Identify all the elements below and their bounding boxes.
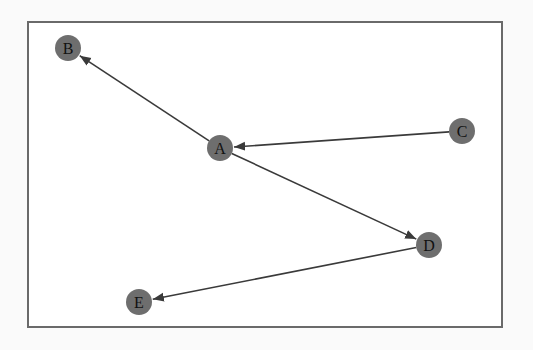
node-label: A [214, 140, 226, 157]
node-d: D [416, 232, 442, 258]
node-e: E [126, 289, 152, 315]
edge-a-to-b [80, 56, 209, 141]
edge-d-to-e [153, 248, 417, 300]
edge-c-to-a [234, 132, 449, 147]
edges-layer [80, 56, 449, 300]
node-a: A [207, 135, 233, 161]
node-label: E [134, 294, 144, 311]
graph-canvas: ABCDE [0, 0, 533, 350]
node-label: C [457, 123, 468, 140]
node-label: B [63, 40, 74, 57]
node-b: B [55, 35, 81, 61]
node-c: C [449, 118, 475, 144]
node-label: D [423, 237, 435, 254]
nodes-layer: ABCDE [55, 35, 475, 315]
edge-a-to-d [232, 153, 417, 239]
